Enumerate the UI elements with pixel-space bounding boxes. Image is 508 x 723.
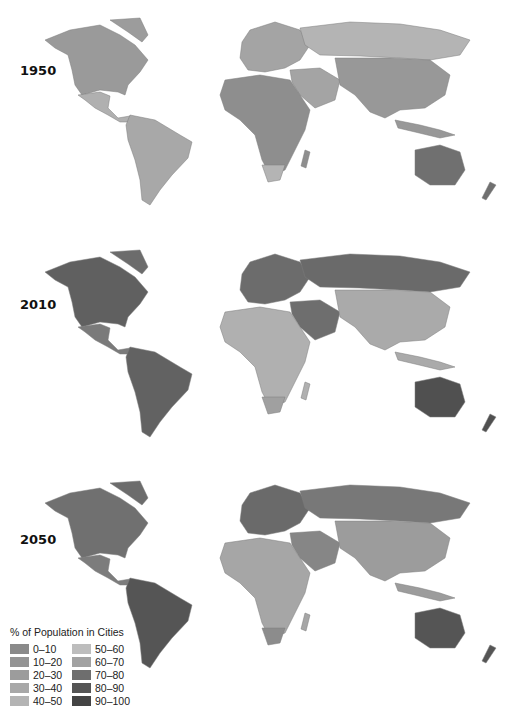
year-label-1950: 1950 <box>20 63 56 78</box>
region-south-africa <box>262 397 285 414</box>
region-south-africa <box>262 628 285 645</box>
region-central-america <box>78 92 132 122</box>
year-label-2050: 2050 <box>20 532 56 547</box>
region-south-america <box>126 578 192 668</box>
legend-label: 10–20 <box>33 656 62 668</box>
legend-label: 0–10 <box>33 643 56 655</box>
region-asia <box>395 120 455 138</box>
legend-swatch <box>72 683 91 693</box>
region-africa <box>301 382 310 400</box>
region-australia <box>415 377 465 417</box>
region-europe <box>240 254 310 304</box>
region-russia <box>300 22 470 60</box>
region-australia <box>415 145 465 185</box>
region-asia <box>395 583 455 601</box>
region-russia <box>300 254 470 292</box>
legend-swatch <box>10 644 29 654</box>
region-asia <box>335 521 450 581</box>
legend-label: 80–90 <box>95 682 124 694</box>
legend-swatch <box>10 683 29 693</box>
region-russia <box>300 485 470 523</box>
region-africa <box>220 307 310 407</box>
legend-swatch <box>10 670 29 680</box>
region-africa <box>301 150 310 168</box>
map-2010 <box>45 250 496 437</box>
legend-item: 20–30 <box>10 668 72 681</box>
legend-swatch <box>72 696 91 706</box>
legend-label: 70–80 <box>95 669 124 681</box>
year-label-2010: 2010 <box>20 297 56 312</box>
region-africa <box>220 538 310 638</box>
legend-label: 30–40 <box>33 682 62 694</box>
legend-label: 20–30 <box>33 669 62 681</box>
legend-swatch <box>10 696 29 706</box>
legend-item: 40–50 <box>10 694 72 707</box>
legend-title: % of Population in Cities <box>10 626 134 638</box>
region-australia <box>482 414 496 432</box>
region-australia <box>482 182 496 200</box>
region-africa <box>301 613 310 631</box>
legend-label: 50–60 <box>95 643 124 655</box>
region-australia <box>482 645 496 663</box>
map-1950 <box>45 18 496 205</box>
legend-swatch <box>72 670 91 680</box>
legend-label: 60–70 <box>95 656 124 668</box>
legend-item: 0–10 <box>10 642 72 655</box>
region-south-america <box>126 115 192 205</box>
region-europe <box>240 22 310 72</box>
legend-swatch <box>72 657 91 667</box>
legend-label: 40–50 <box>33 695 62 707</box>
region-africa <box>220 75 310 175</box>
legend-swatch <box>10 657 29 667</box>
legend-item: 60–70 <box>72 655 134 668</box>
region-central-america <box>78 324 132 354</box>
legend: % of Population in Cities 0–1010–2020–30… <box>10 626 134 707</box>
region-asia <box>395 352 455 370</box>
region-australia <box>415 608 465 648</box>
region-central-america <box>78 555 132 585</box>
legend-item: 10–20 <box>10 655 72 668</box>
region-asia <box>335 58 450 118</box>
world-maps <box>0 0 508 723</box>
legend-item: 90–100 <box>72 694 134 707</box>
legend-item: 80–90 <box>72 681 134 694</box>
legend-label: 90–100 <box>95 695 130 707</box>
legend-item: 30–40 <box>10 681 72 694</box>
region-south-africa <box>262 165 285 182</box>
legend-item: 50–60 <box>72 642 134 655</box>
legend-swatch <box>72 644 91 654</box>
legend-items: 0–1010–2020–3030–4040–5050–6060–7070–808… <box>10 642 134 707</box>
legend-item: 70–80 <box>72 668 134 681</box>
region-south-america <box>126 347 192 437</box>
region-europe <box>240 485 310 535</box>
region-asia <box>335 290 450 350</box>
